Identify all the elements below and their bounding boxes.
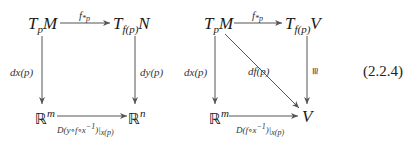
isomorphism-symbol: ≅ <box>310 67 321 75</box>
node-sub: f(p) <box>122 23 138 35</box>
node-main: M <box>43 14 57 33</box>
left-node-rn: ℝn <box>128 108 145 127</box>
right-node-tfpv: Tf(p)V <box>285 15 321 35</box>
node-sup: m <box>221 107 229 119</box>
left-left-arrow-label: dx(p) <box>10 67 33 78</box>
label-sub: *p <box>255 14 263 23</box>
label-sub: x(p) <box>101 128 114 137</box>
right-top-arrow-label: f*p <box>252 10 263 23</box>
left-top-arrow-label: f*p <box>79 10 90 23</box>
label-sub: *p <box>82 14 90 23</box>
right-node-tpm: TpM <box>204 15 233 35</box>
node-base: ℝ <box>209 110 221 128</box>
node-base: ℝ <box>35 110 47 128</box>
node-main: M <box>219 14 233 33</box>
node-sup: m <box>47 107 55 119</box>
label-main: D(y∘f∘x <box>57 125 86 135</box>
node-sub: f(p) <box>294 23 310 35</box>
left-node-tfpn: Tf(p)N <box>113 15 150 35</box>
left-bottom-arrow-label: D(y∘f∘x−1)|x(p) <box>57 123 114 137</box>
right-bottom-arrow-label: D(f∘x−1)|x(p) <box>236 123 284 137</box>
label-main: D(f∘x <box>236 125 256 135</box>
node-sup: n <box>140 107 146 119</box>
label-sub: x(p) <box>271 128 284 137</box>
equation-number: (2.2.4) <box>363 63 403 80</box>
left-right-arrow-label: dy(p) <box>140 67 163 78</box>
label-sup: −1 <box>86 122 95 131</box>
left-node-tpm: TpM <box>28 15 57 35</box>
right-node-rm: ℝm <box>209 108 229 127</box>
node-main: V <box>302 107 312 126</box>
label-sup: −1 <box>256 122 265 131</box>
left-node-rm: ℝm <box>35 108 55 127</box>
right-node-v: V <box>302 108 312 125</box>
right-left-arrow-label: dx(p) <box>184 67 207 78</box>
node-base: ℝ <box>128 110 140 128</box>
node-main: N <box>138 14 149 33</box>
right-diagonal-arrow-label: df(p) <box>248 66 269 77</box>
node-main: V <box>310 14 320 33</box>
